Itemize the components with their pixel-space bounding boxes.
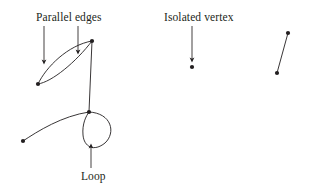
vertex-v3 [90, 39, 94, 43]
annotation-label-loop: Loop [81, 170, 106, 182]
vertex-v2 [36, 82, 40, 86]
edge-layer [23, 33, 288, 148]
vertex-v1 [21, 139, 25, 143]
vertex-v4 [87, 110, 91, 114]
edge-e5 [83, 112, 111, 148]
vertex-layer [21, 31, 290, 143]
graph-canvas [0, 0, 314, 194]
vertex-v5 [190, 65, 194, 69]
edge-e4 [89, 41, 92, 112]
vertex-v6 [275, 71, 279, 75]
edge-e2 [38, 41, 92, 84]
vertex-v7 [286, 31, 290, 35]
annotation-label-isolated-vertex: Isolated vertex [164, 11, 234, 23]
edge-e1 [23, 112, 89, 141]
edge-e6 [277, 33, 288, 73]
annotation-label-parallel-edges: Parallel edges [36, 11, 102, 23]
edge-e3 [38, 41, 92, 84]
annotation-arrow-layer [44, 26, 192, 168]
graph-figure: Parallel edgesIsolated vertexLoop [0, 0, 314, 194]
